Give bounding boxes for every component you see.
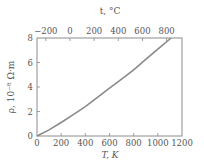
- y-tick-label: 4: [28, 82, 33, 92]
- x-tick-label: 600: [101, 138, 117, 148]
- top-tick-label: 0: [67, 26, 72, 36]
- top-axis-ticks: −2000200400600800: [34, 26, 175, 41]
- top-axis-label: t, °C: [100, 6, 121, 16]
- top-tick-label: −200: [34, 26, 57, 36]
- top-tick-label: 400: [110, 26, 126, 36]
- plot-frame: [37, 38, 182, 136]
- y-axis-ticks: 02468: [28, 33, 40, 141]
- x-tick-label: 200: [53, 138, 69, 148]
- top-tick-label: 600: [134, 26, 150, 36]
- x-tick-label: 1200: [171, 138, 193, 148]
- y-tick-label: 0: [28, 131, 33, 141]
- y-tick-label: 2: [28, 107, 33, 117]
- chart: 020040060080010001200 02468 −20002004006…: [0, 0, 204, 167]
- x-tick-label: 400: [77, 138, 93, 148]
- x-tick-label: 800: [126, 138, 142, 148]
- x-tick-label: 1000: [147, 138, 169, 148]
- x-axis-ticks: 020040060080010001200: [34, 133, 193, 148]
- y-tick-label: 6: [28, 58, 33, 68]
- x-tick-label: 0: [34, 138, 39, 148]
- y-axis-label: ρ, 10⁻⁸ Ω·m: [6, 60, 16, 113]
- x-axis-label: T, K: [101, 150, 119, 160]
- resistivity-curve: [37, 38, 171, 136]
- top-tick-label: 200: [86, 26, 102, 36]
- y-tick-label: 8: [28, 33, 33, 43]
- top-tick-label: 800: [159, 26, 175, 36]
